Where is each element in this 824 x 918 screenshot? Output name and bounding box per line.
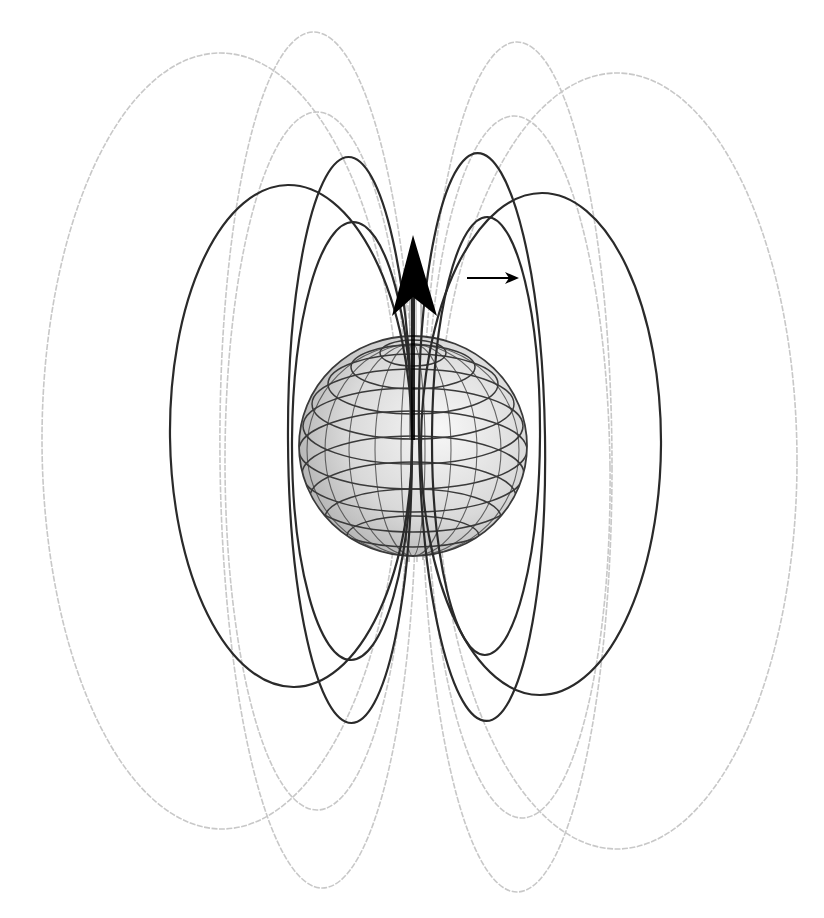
dipole-arrow-shaft xyxy=(411,293,415,440)
dipole-field-diagram xyxy=(0,0,824,918)
